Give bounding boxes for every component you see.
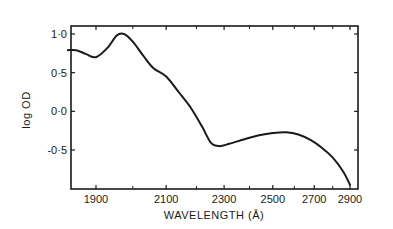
y-tick-label: 0·5	[51, 67, 67, 79]
x-tick-label: 2900	[338, 193, 362, 205]
y-tick-label: -0·5	[47, 144, 67, 156]
x-axis-title: WAVELENGTH (Å)	[164, 209, 265, 221]
x-tick-label: 1900	[84, 193, 108, 205]
x-tick-label: 2100	[154, 193, 178, 205]
plot-border	[71, 26, 358, 189]
chart-canvas: 190021002300250027002900 1·00·50·0-0·5 W…	[0, 0, 393, 229]
y-tick-label: 1·0	[51, 28, 67, 40]
x-axis: 190021002300250027002900	[84, 26, 362, 205]
y-axis: 1·00·50·0-0·5	[47, 28, 358, 156]
x-tick-label: 2300	[212, 193, 236, 205]
x-tick-label: 2500	[261, 193, 285, 205]
y-tick-label: 0·0	[51, 105, 67, 117]
y-axis-title: log OD	[20, 91, 32, 128]
data-line	[68, 33, 350, 184]
x-tick-label: 2700	[302, 193, 326, 205]
plot-frame	[71, 26, 358, 189]
